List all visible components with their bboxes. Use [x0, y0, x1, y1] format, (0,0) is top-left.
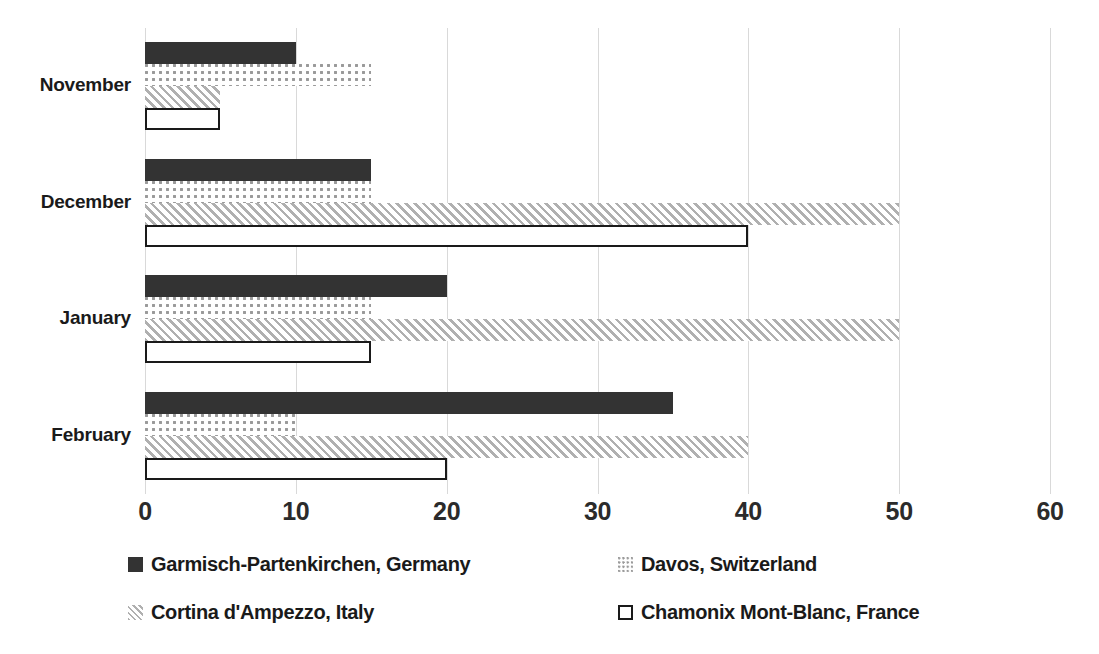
x-tick-label: 10: [256, 497, 336, 526]
bar-garmisch-december: [145, 159, 371, 181]
legend-label: Cortina d'Ampezzo, Italy: [151, 601, 374, 624]
legend-swatch-icon: [618, 557, 633, 572]
x-tick-label: 40: [708, 497, 788, 526]
legend-swatch-icon: [618, 605, 633, 620]
bar-group: [145, 42, 1050, 130]
legend-item-chamonix[interactable]: Chamonix Mont-Blanc, France: [618, 601, 1028, 624]
bar-group: [145, 392, 1050, 480]
x-tick-label: 30: [558, 497, 638, 526]
x-tick-label: 0: [105, 497, 185, 526]
bar-chamonix-november: [145, 108, 220, 130]
bar-davos-february: [145, 414, 296, 436]
chart-legend: Garmisch-Partenkirchen, GermanyDavos, Sw…: [128, 540, 1028, 636]
bar-garmisch-february: [145, 392, 673, 414]
legend-label: Davos, Switzerland: [641, 553, 817, 576]
bar-garmisch-january: [145, 275, 447, 297]
legend-swatch-icon: [128, 605, 143, 620]
bar-chart: 0102030405060 NovemberDecemberJanuaryFeb…: [0, 0, 1099, 654]
legend-swatch-icon: [128, 557, 143, 572]
bar-cortina-january: [145, 319, 899, 341]
legend-label: Garmisch-Partenkirchen, Germany: [151, 553, 470, 576]
legend-item-cortina[interactable]: Cortina d'Ampezzo, Italy: [128, 601, 618, 624]
gridline-60: [1050, 28, 1051, 494]
bar-chamonix-december: [145, 225, 748, 247]
legend-item-garmisch[interactable]: Garmisch-Partenkirchen, Germany: [128, 553, 618, 576]
bar-group: [145, 159, 1050, 247]
bar-group: [145, 275, 1050, 363]
bar-davos-november: [145, 64, 371, 86]
x-tick-label: 60: [1010, 497, 1090, 526]
bar-davos-january: [145, 297, 371, 319]
bar-cortina-november: [145, 86, 220, 108]
category-label-february: February: [0, 424, 131, 446]
bar-cortina-february: [145, 436, 748, 458]
category-label-november: November: [0, 74, 131, 96]
legend-item-davos[interactable]: Davos, Switzerland: [618, 553, 1028, 576]
bar-garmisch-november: [145, 42, 296, 64]
x-tick-label: 50: [859, 497, 939, 526]
bar-chamonix-january: [145, 341, 371, 363]
x-tick-label: 20: [407, 497, 487, 526]
category-label-december: December: [0, 191, 131, 213]
bar-chamonix-february: [145, 458, 447, 480]
plot-area: [145, 28, 1050, 494]
category-label-january: January: [0, 307, 131, 329]
legend-label: Chamonix Mont-Blanc, France: [641, 601, 919, 624]
bar-cortina-december: [145, 203, 899, 225]
bar-davos-december: [145, 181, 371, 203]
